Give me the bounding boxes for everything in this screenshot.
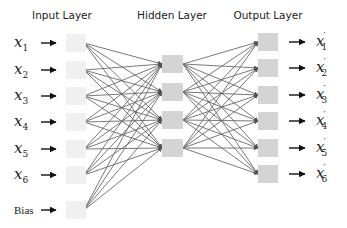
layer-title-2: Output Layer (233, 9, 303, 21)
input-label: x2 (14, 60, 28, 80)
input-label: x5 (14, 139, 28, 159)
output-label: x′2 (316, 57, 327, 78)
autoencoder-diagram: Input LayerHidden LayerOutput Layer x1x2… (0, 0, 347, 228)
edge (84, 148, 162, 149)
input-neuron (66, 166, 86, 184)
edge (183, 92, 258, 174)
input-neuron (66, 113, 86, 131)
output-neuron (258, 139, 278, 157)
bias-neuron (66, 201, 86, 219)
edge (84, 120, 162, 149)
output-label: x′4 (316, 110, 328, 131)
input-neuron (66, 140, 86, 158)
edge (183, 148, 258, 174)
edge (84, 64, 162, 210)
edge (84, 43, 162, 64)
output-label: x′3 (316, 84, 328, 105)
output-label: x′5 (316, 137, 328, 158)
hidden-neuron (162, 55, 183, 73)
input-label: x6 (14, 165, 28, 185)
output-neuron (258, 59, 278, 77)
input-neuron (66, 87, 86, 105)
bias-label: Bias (14, 204, 34, 216)
input-neuron (66, 61, 86, 79)
output-neuron (258, 112, 278, 130)
input-neuron (66, 34, 86, 52)
layer-titles: Input LayerHidden LayerOutput Layer (32, 9, 303, 21)
output-neuron (258, 33, 278, 51)
edge (84, 122, 162, 148)
edge (183, 42, 258, 64)
edge (84, 43, 162, 92)
hidden-neuron (162, 139, 183, 157)
output-label: x′6 (316, 163, 328, 184)
edge (84, 148, 162, 175)
output-neuron (258, 86, 278, 104)
layer-title-1: Hidden Layer (137, 9, 208, 21)
input-label: x3 (14, 86, 28, 106)
output-neuron (258, 165, 278, 183)
hidden-neuron (162, 111, 183, 129)
edge (183, 120, 258, 174)
edge (84, 148, 162, 210)
output-label: x′1 (316, 31, 327, 52)
edge (84, 92, 162, 210)
hidden-neuron (162, 83, 183, 101)
edge (183, 120, 258, 121)
input-label: x1 (14, 33, 28, 53)
layer-title-0: Input Layer (32, 9, 92, 21)
edge (84, 120, 162, 175)
input-label: x4 (14, 112, 28, 132)
